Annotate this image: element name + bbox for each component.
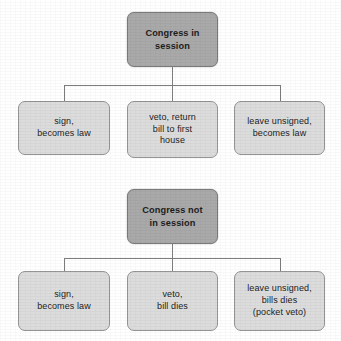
node-leave-unsigned-becomes-law: leave unsigned, becomes law [234, 101, 325, 155]
node-sign-becomes-law: sign, becomes law [18, 101, 110, 155]
node-veto-return-bill: veto, return bill to first house [127, 101, 218, 158]
node-congress-in-session: Congress in session [127, 12, 218, 67]
node-sign-becomes-law-2: sign, becomes law [18, 271, 110, 331]
node-leave-unsigned-pocket-veto: leave unsigned, bills dies (pocket veto) [234, 271, 325, 331]
node-label: sign, becomes law [37, 289, 91, 313]
node-label: veto, return bill to first house [149, 112, 196, 148]
node-label: leave unsigned, becomes law [247, 116, 312, 140]
node-veto-bill-dies: veto, bill dies [127, 271, 218, 331]
node-label: Congress not in session [142, 204, 202, 228]
node-label: leave unsigned, bills dies (pocket veto) [247, 283, 312, 319]
node-label: Congress in session [145, 27, 199, 51]
node-congress-not-in-session: Congress not in session [127, 189, 218, 244]
node-label: veto, bill dies [157, 289, 188, 313]
node-label: sign, becomes law [37, 116, 91, 140]
flowchart-diagram: Congress in session sign, becomes law ve… [0, 0, 341, 341]
